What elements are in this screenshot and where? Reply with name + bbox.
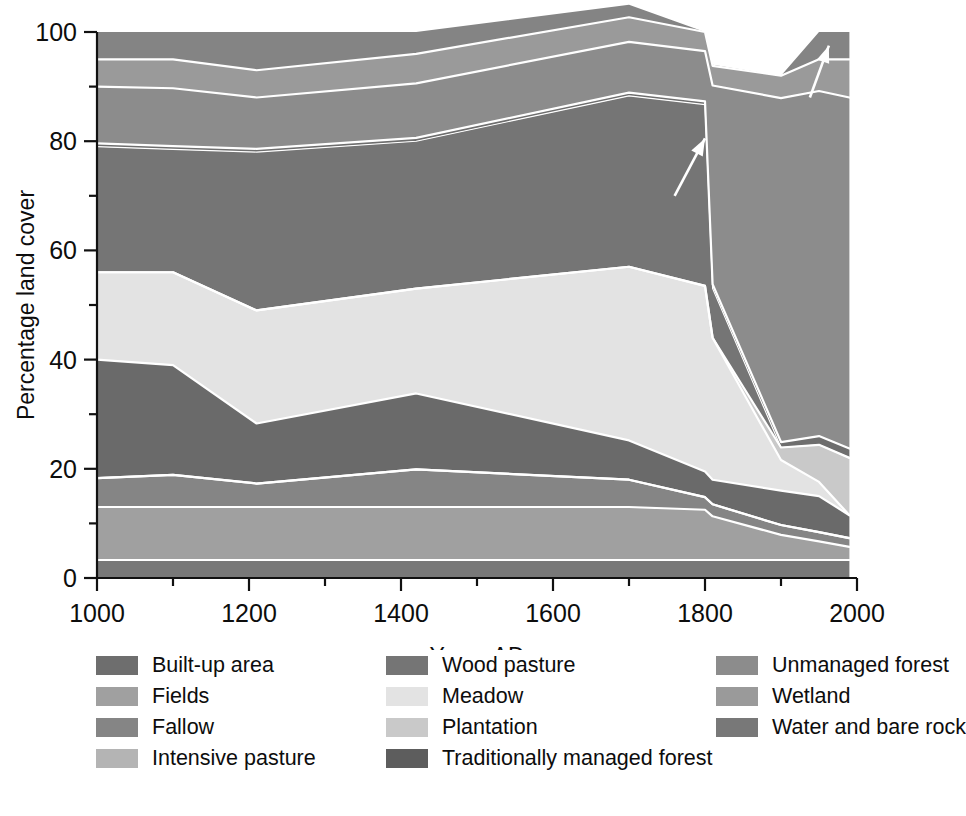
y-tick-label: 20 bbox=[49, 455, 77, 483]
y-tick-label: 0 bbox=[63, 564, 77, 592]
chart-legend: Built-up areaWood pastureUnmanaged fores… bbox=[96, 650, 922, 816]
legend-item-intensive-pasture[interactable]: Intensive pasture bbox=[96, 743, 386, 774]
x-tick-label: 1000 bbox=[69, 599, 125, 627]
legend-label-plantation: Plantation bbox=[442, 717, 538, 738]
legend-swatch-fields bbox=[96, 687, 138, 706]
legend-item-water-and-bare-rock[interactable]: Water and bare rock bbox=[716, 712, 922, 743]
legend-spacer bbox=[716, 743, 922, 774]
x-tick-label: 1400 bbox=[373, 599, 429, 627]
x-tick-label: 1600 bbox=[525, 599, 581, 627]
legend-item-meadow[interactable]: Meadow bbox=[386, 681, 716, 712]
y-tick-label: 100 bbox=[35, 18, 77, 46]
legend-label-fields: Fields bbox=[152, 686, 209, 707]
x-axis-title: Years AD bbox=[429, 643, 524, 650]
legend-label-built-up-area: Built-up area bbox=[152, 655, 274, 676]
x-tick-label: 1800 bbox=[677, 599, 733, 627]
legend-label-wood-pasture: Wood pasture bbox=[442, 655, 575, 676]
legend-swatch-fallow bbox=[96, 718, 138, 737]
legend-item-fields[interactable]: Fields bbox=[96, 681, 386, 712]
legend-item-wetland[interactable]: Wetland bbox=[716, 681, 922, 712]
legend-swatch-wood-pasture bbox=[386, 656, 428, 675]
legend-swatch-wetland bbox=[716, 687, 758, 706]
legend-swatch-water-and-bare-rock bbox=[716, 718, 758, 737]
legend-swatch-built-up-area bbox=[96, 656, 138, 675]
x-tick-label: 1200 bbox=[221, 599, 277, 627]
legend-item-unmanaged-forest[interactable]: Unmanaged forest bbox=[716, 650, 922, 681]
x-tick-label: 2000 bbox=[829, 599, 885, 627]
legend-label-unmanaged-forest: Unmanaged forest bbox=[772, 655, 949, 676]
legend-label-traditionally-managed-forest: Traditionally managed forest bbox=[442, 748, 712, 769]
legend-swatch-plantation bbox=[386, 718, 428, 737]
legend-item-traditionally-managed-forest[interactable]: Traditionally managed forest bbox=[386, 743, 716, 774]
y-tick-label: 80 bbox=[49, 127, 77, 155]
legend-label-wetland: Wetland bbox=[772, 686, 850, 707]
legend-swatch-traditionally-managed-forest bbox=[386, 749, 428, 768]
legend-label-water-and-bare-rock: Water and bare rock bbox=[772, 717, 966, 738]
legend-item-fallow[interactable]: Fallow bbox=[96, 712, 386, 743]
legend-label-intensive-pasture: Intensive pasture bbox=[152, 748, 316, 769]
legend-swatch-meadow bbox=[386, 687, 428, 706]
legend-label-fallow: Fallow bbox=[152, 717, 214, 738]
stacked-area-chart: 020406080100100012001400160018002000Perc… bbox=[0, 0, 922, 650]
y-axis-title: Percentage land cover bbox=[13, 190, 39, 420]
y-tick-label: 60 bbox=[49, 236, 77, 264]
legend-swatch-unmanaged-forest bbox=[716, 656, 758, 675]
area-band-water-and-bare-rock bbox=[97, 560, 849, 578]
legend-item-wood-pasture[interactable]: Wood pasture bbox=[386, 650, 716, 681]
legend-item-built-up-area[interactable]: Built-up area bbox=[96, 650, 386, 681]
legend-swatch-intensive-pasture bbox=[96, 749, 138, 768]
y-tick-label: 40 bbox=[49, 346, 77, 374]
legend-label-meadow: Meadow bbox=[442, 686, 523, 707]
legend-item-plantation[interactable]: Plantation bbox=[386, 712, 716, 743]
